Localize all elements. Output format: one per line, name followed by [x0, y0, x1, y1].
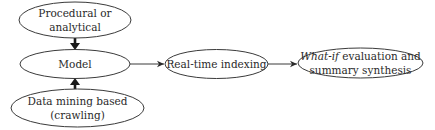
node-label-line2: (crawling)	[50, 109, 105, 121]
node-label-line2: analytical	[49, 21, 101, 33]
node-label: Model	[58, 58, 92, 70]
edge-procedural-to-model	[70, 38, 80, 50]
node-model: Model	[20, 50, 130, 79]
arrowhead-up-icon	[70, 78, 80, 85]
node-label-line2: summary synthesis	[309, 64, 411, 76]
node-real-time-indexing: Real-time indexing	[165, 50, 268, 79]
node-whatif-evaluation: What-if evaluation and summary synthesis	[298, 48, 423, 78]
node-procedural-analytical: Procedural or analytical	[19, 2, 131, 38]
node-data-mining: Data mining based (crawling)	[11, 89, 144, 127]
flow-diagram: Procedural or analytical Model Data mini…	[0, 0, 435, 130]
node-label-line1: Procedural or	[38, 7, 112, 19]
node-label-rest: evaluation and	[339, 50, 421, 62]
node-label-line1: What-if evaluation and	[300, 50, 421, 62]
arrowhead-down-icon	[70, 43, 80, 50]
node-label-line1: Data mining based	[27, 95, 127, 107]
node-label: Real-time indexing	[166, 58, 266, 70]
node-label-italic: What-if	[300, 50, 341, 62]
edge-datamining-to-model	[70, 78, 80, 89]
